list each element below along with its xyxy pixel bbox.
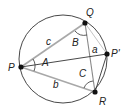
point-P-prime: [104, 51, 109, 56]
angle-arc-C: [84, 81, 93, 88]
label-Q: Q: [86, 7, 94, 18]
point-P: [18, 64, 23, 69]
label-angle-C: C: [79, 68, 87, 79]
label-P: P: [8, 62, 15, 73]
line-RP2: [95, 54, 107, 92]
label-side-b: b: [53, 79, 59, 90]
label-angle-A: A: [41, 57, 49, 68]
geometry-diagram: P Q R P' a b c A B C: [0, 0, 127, 112]
label-angle-B: B: [72, 37, 79, 48]
angle-arc-B: [75, 31, 87, 35]
label-R: R: [99, 96, 106, 107]
label-side-c: c: [46, 36, 51, 47]
point-R: [92, 89, 97, 94]
label-side-a: a: [92, 44, 98, 55]
label-P-prime: P': [111, 48, 121, 59]
point-Q: [82, 20, 87, 25]
